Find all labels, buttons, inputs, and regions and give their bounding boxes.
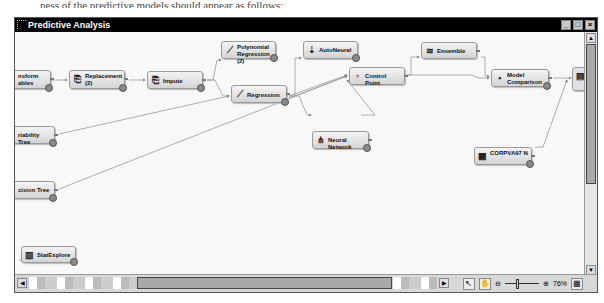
document-caption: ness of the predictive models should app… — [40, 0, 283, 8]
maximize-button[interactable]: □ — [573, 20, 583, 30]
minimize-button[interactable]: _ — [561, 20, 571, 30]
zoom-in-icon[interactable]: ⊕ — [543, 277, 549, 291]
scroll-left-button[interactable]: ◀ — [17, 278, 27, 288]
output-port[interactable] — [286, 93, 290, 95]
node-ensemble[interactable]: ≋ Ensemble — [421, 42, 477, 59]
status-indicator — [49, 194, 57, 202]
node-polynomial-regression[interactable]: ⟋ Polynomial Regression (2) — [221, 41, 276, 59]
node-variability-tree[interactable]: riability Tree — [15, 126, 55, 144]
node-label: Impute — [163, 78, 200, 85]
layout-toggle-icon[interactable]: ▦ — [571, 278, 583, 290]
vertical-scroll-thumb[interactable] — [586, 44, 596, 184]
status-indicator — [119, 84, 127, 92]
diagram-canvas[interactable]: nsform ables ⎘ Replacement (2) ⎘ Impute … — [15, 32, 585, 276]
node-label: Polynomial Regression (2) — [237, 44, 273, 65]
node-label: Regression — [247, 92, 284, 99]
scroll-right-button[interactable]: ▶ — [439, 278, 449, 288]
node-autoneural[interactable]: ⇣ AutoNeural — [303, 41, 358, 59]
status-indicator — [543, 82, 551, 90]
node-transform-variables[interactable]: nsform ables — [15, 70, 51, 89]
data-table-icon: ▦ — [477, 150, 488, 162]
regression-icon: ⟋ — [224, 44, 235, 56]
output-port[interactable] — [50, 78, 54, 80]
zoom-slider-knob[interactable] — [516, 279, 519, 289]
predictive-analysis-window: Predictive Analysis _ □ × — [14, 17, 598, 293]
node-label: Model Comparison — [507, 72, 546, 86]
control-point-icon: ▫ — [352, 70, 363, 82]
close-button[interactable]: × — [585, 20, 595, 30]
node-model-comparison[interactable]: ▪ Model Comparison — [491, 69, 549, 87]
node-neural-network[interactable]: ⋔ Neural Network — [312, 131, 369, 149]
node-label: cision Tree — [18, 187, 52, 194]
status-indicator — [526, 160, 534, 168]
node-control-point[interactable]: ▫ Control Point — [349, 67, 405, 85]
node-impute[interactable]: ⎘ Impute — [147, 71, 203, 89]
scroll-up-button[interactable]: ▲ — [586, 33, 596, 43]
status-toolbar: ◀ ▶ ↖ ✋ ⊖ ⊕ 76% ▦ — [15, 274, 597, 292]
node-statexplore[interactable]: ▥ StatExplore — [21, 246, 76, 263]
status-indicator — [45, 84, 53, 92]
zoom-out-icon[interactable]: ⊖ — [495, 277, 501, 291]
node-replacement[interactable]: ⎘ Replacement (2) — [69, 70, 125, 89]
impute-icon: ⎘ — [150, 74, 161, 86]
regression-icon: ⟋ — [234, 88, 245, 100]
horizontal-scroll-thumb[interactable] — [137, 277, 392, 289]
node-label: AutoNeural — [319, 47, 355, 54]
node-decision-tree[interactable]: cision Tree — [15, 181, 55, 199]
status-indicator — [352, 54, 360, 62]
title-bar[interactable]: Predictive Analysis _ □ × — [15, 18, 597, 32]
output-port[interactable] — [124, 78, 128, 80]
status-indicator — [70, 258, 78, 266]
pan-tool-icon[interactable]: ✋ — [479, 278, 491, 290]
node-label: Ensemble — [437, 48, 474, 55]
status-indicator — [281, 98, 289, 106]
horizontal-scrollbar[interactable]: ◀ ▶ — [17, 277, 437, 289]
node-label: nsform ables — [18, 73, 48, 87]
status-indicator — [363, 144, 371, 152]
node-label: riability Tree — [18, 132, 52, 146]
output-port[interactable] — [548, 77, 552, 79]
neural-network-icon: ⋔ — [315, 134, 326, 146]
output-port[interactable] — [476, 50, 480, 52]
window-title: Predictive Analysis — [28, 18, 110, 32]
node-label: CORPVA97 N — [490, 150, 529, 157]
model-comparison-icon: ▪ — [494, 72, 505, 84]
output-port[interactable] — [404, 75, 408, 77]
output-port[interactable] — [368, 139, 372, 141]
select-tool-icon[interactable]: ↖ — [463, 278, 475, 290]
output-port[interactable] — [531, 155, 535, 157]
vertical-scrollbar[interactable]: ▲ ▼ — [584, 32, 597, 276]
zoom-slider[interactable] — [505, 278, 539, 290]
node-regression[interactable]: ⟋ Regression — [231, 85, 287, 103]
autoneural-icon: ⇣ — [306, 44, 317, 56]
replacement-icon: ⎘ — [72, 73, 83, 85]
statexplore-icon: ▥ — [24, 249, 35, 261]
zoom-tools: ↖ ✋ ⊖ ⊕ 76% ▦ — [463, 277, 583, 291]
output-port[interactable] — [54, 189, 58, 191]
zoom-level: 76% — [553, 277, 567, 291]
status-indicator — [270, 54, 278, 62]
output-port[interactable] — [202, 79, 206, 81]
node-label: Control Point — [365, 73, 402, 87]
node-corpva97[interactable]: ▦ CORPVA97 N — [474, 147, 532, 165]
status-indicator — [49, 139, 57, 147]
output-port[interactable] — [54, 134, 58, 136]
node-label: Neural Network — [328, 137, 366, 151]
ensemble-icon: ≋ — [424, 45, 435, 57]
diagram-icon — [17, 20, 26, 29]
status-indicator — [197, 84, 205, 92]
node-label: Replacement (2) — [85, 73, 122, 87]
node-label: StatExplore — [37, 252, 73, 259]
